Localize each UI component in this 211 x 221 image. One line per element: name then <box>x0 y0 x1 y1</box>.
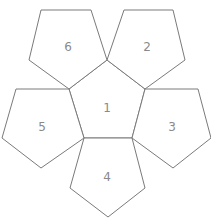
face-5: 5 <box>2 89 84 168</box>
face-3-label: 3 <box>168 120 176 134</box>
face-3: 3 <box>132 89 211 168</box>
face-2-label: 2 <box>143 40 151 54</box>
face-5-label: 5 <box>38 120 46 134</box>
face-4-label: 4 <box>103 170 111 184</box>
pentagon-net-diagram: 1 2 3 4 5 6 <box>0 0 211 221</box>
face-4: 4 <box>70 138 145 217</box>
face-1-label: 1 <box>103 101 111 115</box>
face-6-label: 6 <box>64 40 72 54</box>
